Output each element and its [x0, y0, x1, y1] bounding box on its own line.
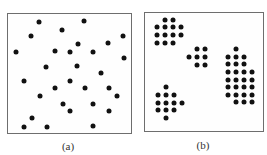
- panel-b-point: [242, 78, 247, 83]
- panel-a-point: [14, 50, 19, 55]
- panel-b-point: [171, 41, 176, 46]
- panel-b-point: [195, 63, 200, 68]
- panel-b-point: [234, 70, 239, 75]
- panel-b-point: [171, 25, 176, 30]
- panel-b-point: [172, 101, 177, 106]
- panel-b-point: [163, 33, 168, 38]
- panel-b-point: [164, 93, 169, 98]
- panel-a-label: (a): [62, 140, 74, 152]
- panel-b-point: [163, 25, 168, 30]
- panel-b-point: [163, 18, 168, 23]
- panel-b-point: [226, 55, 231, 60]
- panel-b-point: [226, 62, 231, 67]
- panel-a-point: [91, 124, 96, 129]
- panel-b-point: [242, 55, 247, 60]
- panel-b-point: [155, 33, 160, 38]
- panel-a-point: [115, 94, 120, 99]
- panel-b-point: [172, 108, 177, 113]
- panel-a-point: [44, 65, 49, 70]
- panel-a-point: [30, 116, 35, 121]
- panel-b-point: [250, 100, 255, 105]
- panel-a-point: [76, 42, 81, 47]
- panel-b-point: [164, 108, 169, 113]
- panel-b-point: [242, 93, 247, 98]
- panel-a-frame: [7, 13, 132, 134]
- panel-b-point: [250, 85, 255, 90]
- panel-b-point: [180, 101, 185, 106]
- panel-a-point: [107, 86, 112, 91]
- panel-a-point: [38, 94, 43, 99]
- panel-a-point: [121, 34, 126, 39]
- panel-a-point: [45, 125, 50, 130]
- panel-a-point: [82, 19, 87, 24]
- panel-b-point: [172, 93, 177, 98]
- panel-b-point: [242, 100, 247, 105]
- panel-b-point: [203, 55, 208, 60]
- panel-b-point: [195, 47, 200, 52]
- panel-b-point: [234, 55, 239, 60]
- panel-a-point: [75, 64, 80, 69]
- panel-a-point: [22, 125, 27, 130]
- panel-a-point: [61, 102, 66, 107]
- panel-b-point: [234, 85, 239, 90]
- panel-b-point: [226, 93, 231, 98]
- panel-b-point: [226, 78, 231, 83]
- panel-b-point: [195, 55, 200, 60]
- panel-a-point: [68, 50, 73, 55]
- panel-a-point: [29, 34, 34, 39]
- panel-b-point: [155, 41, 160, 46]
- panel-b-point: [234, 100, 239, 105]
- panel-a-point: [37, 20, 42, 25]
- panel-a-point: [68, 109, 73, 114]
- panel-a-point: [122, 56, 127, 61]
- panel-b-point: [179, 33, 184, 38]
- panel-b-point: [164, 116, 169, 121]
- panel-b-point: [171, 33, 176, 38]
- panel-b-point: [163, 41, 168, 46]
- panel-a-point: [22, 79, 27, 84]
- panel-a-point: [106, 41, 111, 46]
- panel-a-point: [53, 86, 58, 91]
- panel-b-point: [187, 55, 192, 60]
- panel-b-point: [250, 93, 255, 98]
- panel-b-point: [203, 47, 208, 52]
- panel-b-point: [242, 85, 247, 90]
- panel-b-point: [242, 70, 247, 75]
- panel-b-point: [242, 62, 247, 67]
- panel-b-point: [171, 18, 176, 23]
- panel-b-point: [226, 85, 231, 90]
- panel-a-point: [99, 71, 104, 76]
- panel-b-point: [234, 62, 239, 67]
- panel-b-point: [234, 93, 239, 98]
- panel-b-point: [156, 93, 161, 98]
- panel-a-point: [91, 102, 96, 107]
- panel-b-point: [155, 25, 160, 30]
- panel-a-point: [68, 79, 73, 84]
- panel-b-point: [234, 47, 239, 52]
- panel-b-point: [226, 70, 231, 75]
- panel-a-point: [83, 86, 88, 91]
- panel-b-point: [234, 78, 239, 83]
- panel-a-point: [60, 28, 65, 33]
- panel-b-point: [156, 101, 161, 106]
- panel-b-label: (b): [197, 139, 210, 151]
- panel-a-point: [91, 50, 96, 55]
- panel-b-point: [203, 63, 208, 68]
- panel-a-point: [107, 109, 112, 114]
- panel-a-point: [53, 49, 58, 54]
- panel-b-point: [156, 108, 161, 113]
- panel-b-point: [250, 70, 255, 75]
- panel-b-point: [179, 25, 184, 30]
- panel-b-point: [164, 85, 169, 90]
- panel-b-point: [164, 101, 169, 106]
- panel-b-point: [250, 78, 255, 83]
